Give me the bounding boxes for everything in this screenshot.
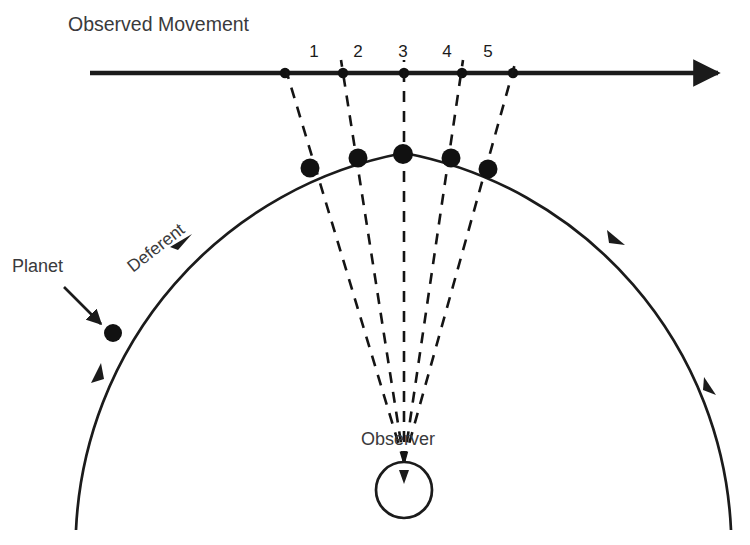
tick-number-3: 3: [398, 42, 407, 61]
deferent-direction-arrow-1: [91, 363, 104, 383]
deferent-direction-arrow-4: [703, 377, 716, 395]
planet-pointer-arrow: [64, 287, 101, 324]
planet-position-4: [442, 149, 461, 168]
planet-position-2: [349, 149, 368, 168]
planet-callout-group: Planet: [12, 256, 122, 342]
tick-number-4: 4: [442, 42, 451, 61]
tick-number-5: 5: [483, 42, 492, 61]
observer-group: Observer: [361, 429, 435, 518]
diagram-canvas: Observed Movement 1 2 3 4 5: [0, 0, 750, 545]
planet-position-5: [479, 160, 498, 179]
sight-line-4: [404, 60, 463, 462]
deferent-direction-arrow-3: [607, 230, 625, 245]
ptolemaic-deferent-diagram: Observed Movement 1 2 3 4 5: [0, 0, 750, 545]
tick-number-2: 2: [353, 42, 362, 61]
planet-label: Planet: [12, 256, 63, 276]
tick-number-group: 1 2 3 4 5: [309, 42, 492, 61]
planet-marker: [104, 324, 122, 342]
sight-line-2: [341, 60, 404, 462]
page-title: Observed Movement: [68, 13, 250, 35]
observer-eye-arrow-icon: [399, 470, 409, 484]
planet-position-1: [301, 159, 320, 178]
observed-point-3: [457, 68, 467, 78]
observer-label: Observer: [361, 429, 435, 449]
sight-line-5: [404, 60, 516, 462]
sight-line-1: [283, 60, 404, 462]
planet-position-3: [393, 144, 413, 164]
tick-number-1: 1: [309, 42, 318, 61]
sight-lines-group: [283, 60, 516, 462]
